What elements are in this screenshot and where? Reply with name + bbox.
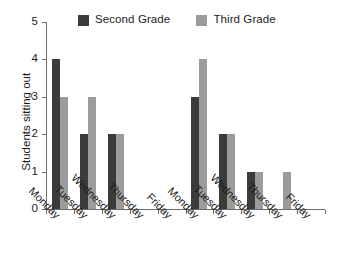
y-tick-4: 4: [42, 59, 46, 60]
y-axis-line: [46, 22, 47, 210]
bar-chart: Second Grade Third Grade Students sittin…: [0, 0, 344, 279]
y-tick-2: 2: [42, 134, 46, 135]
y-axis-title: Students sitting out: [21, 42, 33, 202]
y-tick-3: 3: [42, 97, 46, 98]
y-tick-label-4: 4: [32, 53, 38, 65]
y-tick-label-2: 2: [32, 128, 38, 140]
y-tick-label-1: 1: [32, 166, 38, 178]
y-tick-5: 5: [42, 22, 46, 23]
x-axis-labels: MondayTuesdayWednesdayThursdayFridayMond…: [46, 213, 325, 279]
x-tick-10: [325, 210, 326, 214]
y-tick-label-0: 0: [32, 203, 38, 215]
y-tick-1: 1: [42, 172, 46, 173]
y-tick-label-5: 5: [32, 16, 38, 28]
y-tick-label-3: 3: [32, 91, 38, 103]
